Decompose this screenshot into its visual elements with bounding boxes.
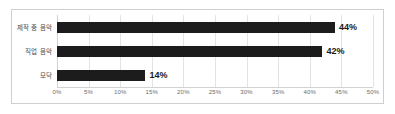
bar-chart-figure: 제작 중 음악직업 음악모닥 44%42%14% 0%5%10%15%20%25… xyxy=(0,0,395,114)
category-label: 모닥 xyxy=(40,63,52,87)
bar-row: 44% xyxy=(57,15,373,39)
bar xyxy=(57,46,322,57)
bars-layer: 44%42%14% xyxy=(57,15,373,87)
x-tick-label: 50% xyxy=(367,89,380,95)
category-label: 직업 음악 xyxy=(25,39,52,63)
x-tick-label: 10% xyxy=(114,89,127,95)
bar-value-label: 44% xyxy=(339,23,357,32)
bar xyxy=(57,70,145,81)
bar-row: 42% xyxy=(57,39,373,63)
category-label: 제작 중 음악 xyxy=(17,15,52,39)
x-tick-label: 15% xyxy=(145,89,158,95)
bar xyxy=(57,22,335,33)
x-tick-label: 20% xyxy=(177,89,190,95)
plot-area: 44%42%14% xyxy=(57,15,373,87)
bar-value-label: 42% xyxy=(326,47,344,56)
x-axis-line xyxy=(57,87,373,88)
x-tick-label: 0% xyxy=(52,89,61,95)
x-tick-label: 30% xyxy=(240,89,253,95)
x-tick-label: 25% xyxy=(209,89,222,95)
category-axis-labels: 제작 중 음악직업 음악모닥 xyxy=(12,15,55,87)
x-tick-label: 5% xyxy=(84,89,93,95)
x-tick-label: 40% xyxy=(303,89,316,95)
x-axis-tick-labels: 0%5%10%15%20%25%30%35%40%45%50% xyxy=(57,89,373,101)
chart-frame: 제작 중 음악직업 음악모닥 44%42%14% 0%5%10%15%20%25… xyxy=(11,9,384,104)
bar-value-label: 14% xyxy=(149,71,167,80)
gridline-50% xyxy=(373,15,374,87)
x-tick-label: 35% xyxy=(272,89,285,95)
x-tick-label: 45% xyxy=(335,89,348,95)
bar-row: 14% xyxy=(57,63,373,87)
